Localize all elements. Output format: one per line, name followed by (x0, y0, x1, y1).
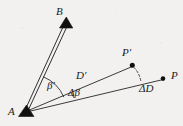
figure-canvas (0, 0, 183, 126)
arc-P-prime-to-AP (134, 68, 141, 83)
label-segment-delta-d: ΔD (139, 83, 153, 94)
label-angle-delta-beta: Δβ (68, 87, 80, 98)
label-angle-beta-prime: β′ (47, 80, 55, 91)
label-segment-d-prime: D′ (76, 70, 86, 81)
point-P-dot (161, 76, 166, 81)
point-P-prime-dot (130, 63, 135, 68)
label-point-B: B (56, 6, 63, 17)
geometry-figure: B A P′ P β′ Δβ D′ ΔD (0, 0, 183, 126)
station-B-triangle (60, 17, 73, 28)
label-point-P: P (171, 70, 178, 81)
label-point-p-prime: P′ (122, 47, 131, 58)
ray-A-to-B (25, 26, 68, 112)
label-point-A: A (8, 106, 15, 117)
